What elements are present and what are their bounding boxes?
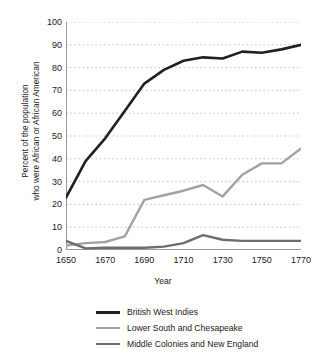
y-axis-tick-label: 70: [52, 85, 62, 95]
y-axis-tick-label: 20: [52, 199, 62, 209]
legend-item: Middle Colonies and New England: [96, 336, 326, 352]
y-axis-tick-label: 40: [52, 154, 62, 164]
y-axis-tick-label: 50: [52, 131, 62, 141]
y-axis-tick-label: 80: [52, 63, 62, 73]
x-axis-title: Year: [0, 276, 326, 286]
x-axis-tick-label: 1770: [291, 255, 311, 265]
legend-item-label: Middle Colonies and New England: [127, 339, 258, 349]
y-axis-tick-label: 100: [47, 17, 62, 27]
x-axis-tick-label: 1750: [252, 255, 272, 265]
x-axis-tick-label: 1690: [134, 255, 154, 265]
legend-item-label: Lower South and Chesapeake: [127, 323, 243, 333]
chart-figure: Percent of the population who were Afric…: [0, 0, 326, 353]
y-axis-tick-label: 30: [52, 177, 62, 187]
y-axis-title: Percent of the population who were Afric…: [20, 41, 42, 221]
x-axis-tick-label: 1670: [95, 255, 115, 265]
x-axis-tick-label: 1710: [173, 255, 193, 265]
y-axis-title-line1: Percent of the population: [21, 84, 30, 178]
x-axis-tick-label: 1730: [213, 255, 233, 265]
y-axis-tick-label: 0: [57, 245, 62, 255]
legend-item: Lower South and Chesapeake: [96, 320, 326, 336]
plot-area: 0102030405060708090100165016701690171017…: [66, 22, 301, 250]
x-axis-tick-label: 1650: [56, 255, 76, 265]
legend-swatch-line-icon: [96, 311, 120, 314]
legend-item: British West Indies: [96, 304, 326, 320]
y-axis-title-line2: who were African or African American: [31, 41, 42, 221]
legend-swatch-line-icon: [96, 343, 120, 345]
legend-swatch-line-icon: [96, 327, 120, 329]
chart-canvas: [66, 22, 301, 250]
y-axis-tick-label: 60: [52, 108, 62, 118]
legend-item-label: British West Indies: [127, 307, 198, 317]
y-axis-tick-label: 90: [52, 40, 62, 50]
chart-legend: British West IndiesLower South and Chesa…: [96, 304, 326, 352]
y-axis-tick-label: 10: [52, 222, 62, 232]
